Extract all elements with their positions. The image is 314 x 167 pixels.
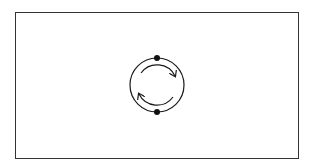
diagram-frame xyxy=(16,13,299,159)
top-node-dot xyxy=(154,55,160,61)
bottom-node-dot xyxy=(154,109,160,115)
cycle-diagram xyxy=(0,0,314,167)
